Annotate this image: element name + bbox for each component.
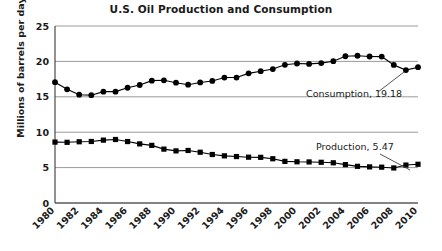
x-tick-label: 1994 bbox=[199, 204, 226, 231]
data-point-consumption bbox=[173, 80, 179, 86]
data-point-consumption bbox=[306, 61, 312, 67]
data-point-production bbox=[367, 164, 372, 169]
data-point-consumption bbox=[125, 85, 131, 91]
data-point-consumption bbox=[197, 80, 203, 86]
x-tick-labels-group: 1980198219841986198819901992199419961998… bbox=[30, 204, 420, 231]
x-tick-label: 2000 bbox=[272, 204, 299, 231]
chart-container: U.S. Oil Production and Consumption Mill… bbox=[0, 0, 442, 251]
data-point-consumption bbox=[88, 92, 94, 98]
data-point-production bbox=[307, 159, 312, 164]
data-point-production bbox=[149, 143, 154, 148]
x-tick-label: 2010 bbox=[393, 204, 420, 231]
data-point-production bbox=[89, 139, 94, 144]
data-point-production bbox=[355, 164, 360, 169]
data-point-production bbox=[198, 150, 203, 155]
x-tick-label: 1986 bbox=[103, 204, 130, 231]
x-tick-label: 2006 bbox=[345, 204, 372, 231]
data-point-production bbox=[234, 154, 239, 159]
data-point-consumption bbox=[367, 54, 373, 60]
y-tick-label: 25 bbox=[36, 21, 49, 32]
y-tick-labels-group: 0510152025 bbox=[36, 21, 50, 209]
data-point-production bbox=[391, 165, 396, 170]
annotation-production: Production, 5.47 bbox=[316, 141, 394, 152]
data-point-consumption bbox=[64, 86, 70, 92]
data-point-consumption bbox=[222, 75, 228, 81]
data-point-consumption bbox=[379, 54, 385, 60]
data-point-consumption bbox=[415, 64, 421, 70]
y-tick-label: 20 bbox=[36, 56, 50, 67]
data-point-consumption bbox=[391, 62, 397, 68]
data-point-production bbox=[415, 162, 420, 167]
data-point-consumption bbox=[149, 78, 155, 84]
data-point-consumption bbox=[282, 62, 288, 68]
data-point-production bbox=[379, 165, 384, 170]
x-tick-label: 1988 bbox=[127, 204, 154, 231]
x-tick-label: 1996 bbox=[224, 204, 251, 231]
gridlines-group bbox=[55, 26, 418, 203]
data-point-production bbox=[246, 155, 251, 160]
data-point-production bbox=[137, 141, 142, 146]
x-tick-label: 1984 bbox=[78, 204, 105, 231]
data-point-production bbox=[258, 155, 263, 160]
axis-lines-group bbox=[55, 26, 418, 203]
data-point-production bbox=[77, 139, 82, 144]
data-point-consumption bbox=[185, 82, 191, 88]
x-tick-label: 2008 bbox=[369, 204, 396, 231]
data-point-production bbox=[65, 140, 70, 145]
data-point-consumption bbox=[76, 92, 82, 98]
chart-plot-area: 0510152025 19801982198419861988199019921… bbox=[0, 0, 442, 251]
data-point-consumption bbox=[318, 60, 324, 66]
data-point-consumption bbox=[234, 75, 240, 81]
data-point-consumption bbox=[52, 79, 58, 85]
data-point-production bbox=[173, 148, 178, 153]
data-point-production bbox=[294, 159, 299, 164]
annotation-consumption: Consumption, 19.18 bbox=[306, 88, 402, 99]
x-tick-label: 2002 bbox=[296, 205, 322, 231]
data-point-consumption bbox=[343, 53, 349, 59]
data-point-consumption bbox=[101, 89, 107, 95]
data-point-consumption bbox=[330, 58, 336, 64]
data-point-production bbox=[101, 138, 106, 143]
data-point-consumption bbox=[161, 77, 167, 83]
x-tick-label: 1998 bbox=[248, 204, 275, 231]
data-series-group bbox=[52, 53, 421, 171]
data-point-production bbox=[343, 162, 348, 167]
data-point-consumption bbox=[294, 61, 300, 67]
data-point-consumption bbox=[258, 68, 264, 74]
data-point-consumption bbox=[270, 66, 276, 72]
y-tick-label: 10 bbox=[36, 127, 50, 138]
data-point-consumption bbox=[246, 70, 252, 76]
data-point-production bbox=[319, 160, 324, 165]
y-tick-label: 15 bbox=[36, 91, 49, 102]
y-tick-label: 5 bbox=[42, 162, 49, 173]
data-point-production bbox=[270, 156, 275, 161]
data-point-production bbox=[282, 159, 287, 164]
data-point-production bbox=[210, 152, 215, 157]
data-point-consumption bbox=[355, 53, 361, 59]
data-point-consumption bbox=[137, 82, 143, 88]
data-point-production bbox=[125, 139, 130, 144]
data-point-production bbox=[113, 137, 118, 142]
x-tick-label: 1982 bbox=[54, 205, 80, 231]
data-point-production bbox=[52, 140, 57, 145]
data-point-production bbox=[222, 153, 227, 158]
x-tick-label: 1990 bbox=[151, 204, 178, 231]
x-tick-label: 1992 bbox=[175, 205, 201, 231]
data-point-production bbox=[161, 147, 166, 152]
x-tick-label: 2004 bbox=[320, 204, 347, 231]
data-point-consumption bbox=[209, 78, 215, 84]
data-point-production bbox=[331, 160, 336, 165]
data-point-production bbox=[186, 148, 191, 153]
data-point-consumption bbox=[113, 89, 119, 95]
annotations-group: Consumption, 19.18Production, 5.47 bbox=[306, 72, 410, 170]
